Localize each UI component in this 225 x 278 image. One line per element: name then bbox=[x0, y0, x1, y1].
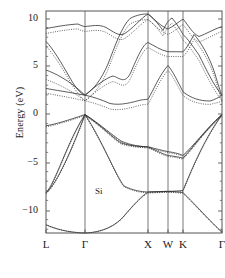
band-curve-solid-2 bbox=[46, 115, 222, 193]
band-curve-solid-0 bbox=[46, 191, 222, 233]
plot-border bbox=[46, 11, 222, 233]
band-curve-dotted-4 bbox=[46, 46, 222, 110]
axis-tick-marks bbox=[46, 19, 222, 233]
band-curve-dotted-2 bbox=[46, 116, 222, 194]
band-curve-solid-5 bbox=[46, 35, 222, 96]
band-curve-dotted-3 bbox=[46, 116, 222, 157]
band-curve-solid-3 bbox=[46, 115, 222, 156]
band-curve-dotted-7 bbox=[46, 20, 222, 42]
band-structure-figure: Energy (eV) 1050−5−10 LΓXWKΓ Si bbox=[0, 0, 225, 278]
solid-band-curves bbox=[46, 14, 222, 233]
x-tick-label-0: L bbox=[36, 238, 56, 250]
band-curve-dotted-5 bbox=[46, 40, 222, 101]
system-annotation-si: Si bbox=[95, 186, 103, 196]
axes-frame bbox=[46, 11, 222, 233]
band-curve-dotted-6 bbox=[46, 20, 222, 101]
y-tick-label-0: 10 bbox=[12, 12, 38, 23]
band-structure-plot bbox=[0, 0, 225, 278]
band-curve-solid-1 bbox=[46, 115, 222, 193]
x-tick-label-1: Γ bbox=[75, 238, 95, 250]
x-tick-label-4: K bbox=[173, 238, 193, 250]
y-tick-label-4: −10 bbox=[12, 204, 38, 215]
band-curve-dotted-1 bbox=[46, 116, 222, 194]
y-tick-label-2: 0 bbox=[12, 107, 38, 118]
band-curve-dotted-0 bbox=[46, 192, 222, 233]
dotted-band-curves bbox=[46, 20, 222, 234]
x-tick-label-5: Γ bbox=[212, 238, 225, 250]
y-tick-label-3: −5 bbox=[12, 156, 38, 167]
band-curve-solid-7 bbox=[46, 14, 222, 37]
y-tick-label-1: 5 bbox=[12, 59, 38, 70]
x-tick-label-2: X bbox=[138, 238, 158, 250]
